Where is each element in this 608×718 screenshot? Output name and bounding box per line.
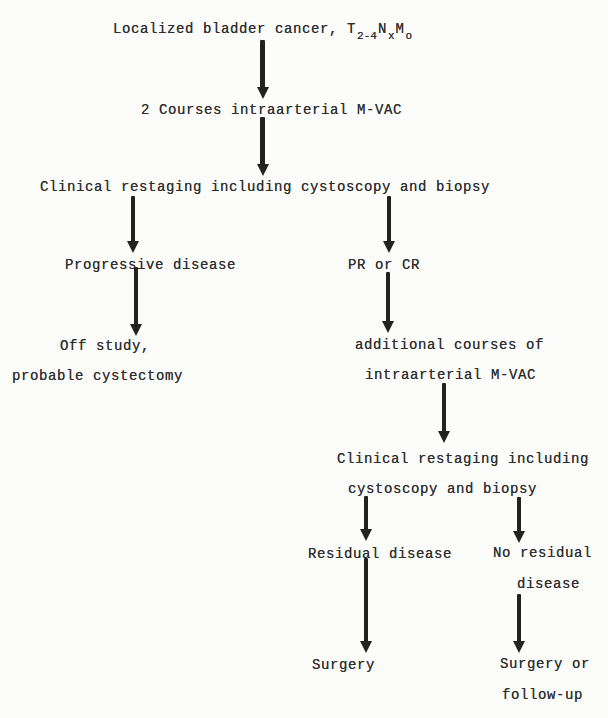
node-surgery-followup-text1: Surgery or xyxy=(500,656,590,672)
arrow-shaft xyxy=(442,383,446,432)
arrow-start-to-courses1 xyxy=(256,40,269,99)
node-no-residual-text1: No residual xyxy=(493,545,592,561)
node-off-study-line2: probable cystectomy xyxy=(12,368,183,384)
node-start: Localized bladder cancer, T2-4NxMo xyxy=(113,21,413,37)
arrow-residual-to-surgery xyxy=(359,558,372,653)
node-surgery: Surgery xyxy=(312,657,375,673)
staging-t-base: T xyxy=(347,21,356,37)
arrow-down-icon xyxy=(438,431,450,443)
node-pr-or-cr: PR or CR xyxy=(348,257,420,273)
node-start-text: Localized bladder cancer, xyxy=(113,21,338,37)
staging-n-base: N xyxy=(378,21,387,37)
node-residual-disease: Residual disease xyxy=(308,546,452,562)
node-surgery-followup-line1: Surgery or xyxy=(500,656,590,672)
node-restage1-text: Clinical restaging including cystoscopy … xyxy=(40,179,490,195)
arrow-down-icon xyxy=(257,164,269,176)
node-restage2-text2: cystoscopy and biopsy xyxy=(348,481,537,497)
node-no-residual-line2: disease xyxy=(517,576,580,592)
arrow-shaft xyxy=(131,196,135,242)
node-no-residual-text2: disease xyxy=(517,576,580,592)
node-restage1: Clinical restaging including cystoscopy … xyxy=(40,179,490,195)
arrow-restage2-to-residual xyxy=(359,496,372,541)
arrow-down-icon xyxy=(513,531,525,543)
arrow-down-icon xyxy=(127,241,139,253)
node-courses1-text: 2 Courses intraarterial M-VAC xyxy=(141,102,402,118)
node-add-courses-line2: intraarterial M-VAC xyxy=(365,367,536,383)
node-restage2-text1: Clinical restaging including xyxy=(337,451,589,467)
staging-m-sub: o xyxy=(405,30,414,42)
arrow-shaft xyxy=(134,267,138,325)
arrow-down-icon xyxy=(513,641,525,653)
node-restage2-line1: Clinical restaging including xyxy=(337,451,589,467)
arrow-down-icon xyxy=(360,529,372,541)
node-add-courses-text1: additional courses of xyxy=(355,337,544,353)
arrow-restage1-to-progressive xyxy=(126,196,139,253)
node-off-study-text1: Off study, xyxy=(60,338,150,354)
node-off-study-text2: probable cystectomy xyxy=(12,368,183,384)
node-pr-or-cr-text: PR or CR xyxy=(348,257,420,273)
node-residual-text: Residual disease xyxy=(308,546,452,562)
arrow-courses1-to-restage1 xyxy=(256,117,269,176)
arrow-restage2-to-noresidual xyxy=(512,497,525,543)
node-courses1: 2 Courses intraarterial M-VAC xyxy=(141,102,402,118)
arrow-progressive-to-offstudy xyxy=(129,267,142,336)
node-add-courses-line1: additional courses of xyxy=(355,337,544,353)
arrow-down-icon xyxy=(360,641,372,653)
arrow-shaft xyxy=(387,196,391,242)
node-surgery-followup-text2: follow-up xyxy=(502,687,583,703)
staging-t-sub: 2-4 xyxy=(356,30,378,42)
arrow-shaft xyxy=(364,496,368,530)
arrow-down-icon xyxy=(383,241,395,253)
arrow-noresidual-to-followup xyxy=(512,594,525,653)
arrow-shaft xyxy=(260,117,265,165)
staging-notation: T2-4NxMo xyxy=(347,21,413,37)
node-off-study-line1: Off study, xyxy=(60,338,150,354)
node-progressive-text: Progressive disease xyxy=(65,257,236,273)
arrow-down-icon xyxy=(257,87,269,99)
staging-n-sub: x xyxy=(387,30,396,42)
arrow-prcr-to-addcourses xyxy=(381,272,394,333)
flowchart-canvas: Localized bladder cancer, T2-4NxMo 2 Cou… xyxy=(0,0,608,718)
node-restage2-line2: cystoscopy and biopsy xyxy=(348,481,537,497)
node-surgery-followup-line2: follow-up xyxy=(502,687,583,703)
arrow-shaft xyxy=(386,272,390,322)
node-add-courses-text2: intraarterial M-VAC xyxy=(365,367,536,383)
node-progressive-disease: Progressive disease xyxy=(65,257,236,273)
arrow-shaft xyxy=(364,558,368,642)
node-surgery-text: Surgery xyxy=(312,657,375,673)
arrow-shaft xyxy=(260,40,265,88)
arrow-shaft xyxy=(517,497,521,532)
staging-m-base: M xyxy=(396,21,405,37)
arrow-down-icon xyxy=(130,324,142,336)
arrow-addcourses-to-restage2 xyxy=(437,383,450,443)
arrow-shaft xyxy=(517,594,521,642)
arrow-down-icon xyxy=(382,321,394,333)
node-no-residual-line1: No residual xyxy=(493,545,592,561)
arrow-restage1-to-prcr xyxy=(382,196,395,253)
